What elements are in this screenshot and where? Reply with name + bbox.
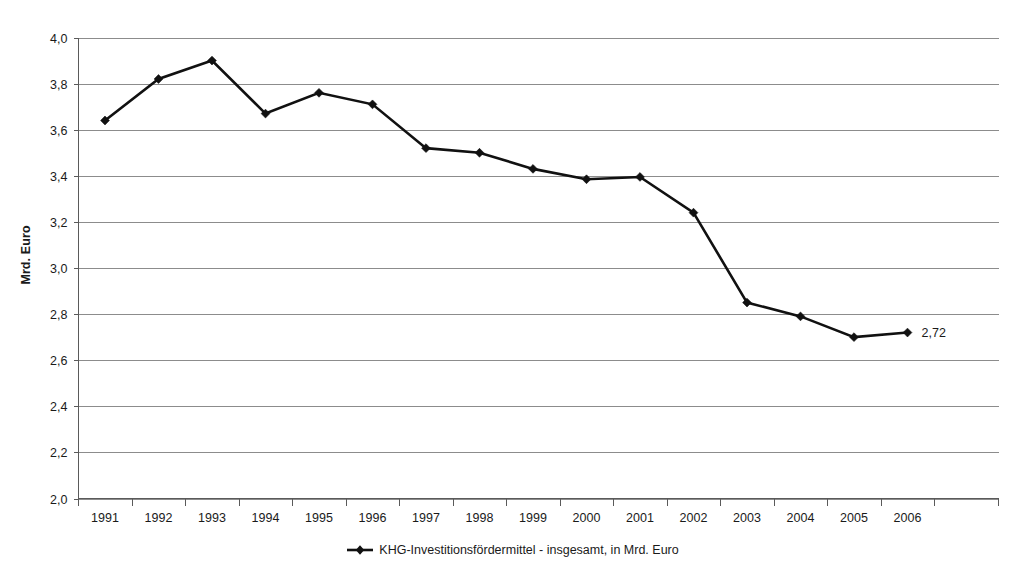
x-tick-label: 2003 <box>733 511 761 525</box>
x-tick-label: 1994 <box>252 511 280 525</box>
chart-container: Mrd. Euro 2,02,22,42,62,83,03,23,43,63,8… <box>0 0 1026 579</box>
data-series-line <box>105 61 908 338</box>
data-point-marker <box>903 328 912 337</box>
y-axis-tick-labels: 2,02,22,42,62,83,03,23,43,63,84,0 <box>50 32 67 507</box>
y-tick-label: 3,4 <box>50 170 67 184</box>
x-tick-label: 2001 <box>626 511 654 525</box>
x-tick-label: 1992 <box>145 511 173 525</box>
x-tick-label: 1998 <box>466 511 494 525</box>
y-tick-label: 2,4 <box>50 400 67 414</box>
y-tick-label: 3,6 <box>50 124 67 138</box>
data-point-labels: 2,72 <box>922 326 946 340</box>
x-tick-label: 1993 <box>198 511 226 525</box>
x-tick-label: 1995 <box>305 511 333 525</box>
y-tick-label: 4,0 <box>50 32 67 46</box>
y-tick-label: 3,2 <box>50 216 67 230</box>
diamond-marker-icon <box>347 544 373 556</box>
data-point-marker <box>796 312 805 321</box>
data-point-marker <box>475 148 484 157</box>
x-tick-label: 2006 <box>894 511 922 525</box>
x-tick-label: 2004 <box>787 511 815 525</box>
data-point-markers <box>101 56 912 341</box>
chart-plot-area: 2,02,22,42,62,83,03,23,43,63,84,0 199119… <box>0 0 1026 579</box>
series-line <box>105 61 908 338</box>
y-tick-label: 2,0 <box>50 493 67 507</box>
y-tick-label: 2,2 <box>50 446 67 460</box>
y-tick-label: 2,6 <box>50 354 67 368</box>
chart-legend: KHG-Investitionsfördermittel - insgesamt… <box>0 543 1026 557</box>
axis-ticks <box>74 39 999 506</box>
x-tick-label: 1996 <box>359 511 387 525</box>
x-tick-label: 2005 <box>840 511 868 525</box>
y-tick-label: 2,8 <box>50 308 67 322</box>
data-point-marker <box>850 333 859 342</box>
y-tick-label: 3,0 <box>50 262 67 276</box>
x-tick-label: 1991 <box>91 511 119 525</box>
gridlines <box>79 39 999 500</box>
data-point-marker <box>529 164 538 173</box>
data-point-label: 2,72 <box>922 326 946 340</box>
legend-label: KHG-Investitionsfördermittel - insgesamt… <box>379 543 678 557</box>
y-tick-label: 3,8 <box>50 78 67 92</box>
x-tick-label: 1999 <box>519 511 547 525</box>
x-tick-label: 2002 <box>680 511 708 525</box>
axis-lines <box>79 38 999 506</box>
x-tick-label: 1997 <box>412 511 440 525</box>
x-tick-label: 2000 <box>573 511 601 525</box>
data-point-marker <box>315 88 324 97</box>
x-axis-tick-labels: 1991199219931994199519961997199819992000… <box>91 511 921 525</box>
